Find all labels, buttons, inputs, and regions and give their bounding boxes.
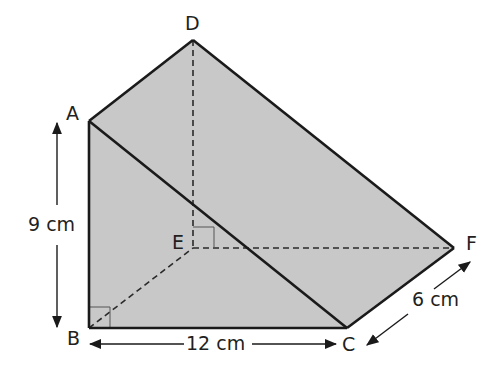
vertex-label-f: F [466,234,477,253]
vertex-label-a: A [66,104,79,123]
dimension-base-label: 12 cm [186,334,245,353]
depth-arrow-up-icon [434,262,470,289]
vertex-label-c: C [342,335,355,354]
prism-diagram [0,0,493,374]
vertex-label-b: B [67,329,80,348]
vertex-label-d: D [185,14,200,33]
prism-shaded-face [89,40,454,328]
dimension-height-label: 9 cm [28,215,75,234]
dimension-depth-label: 6 cm [412,290,459,309]
depth-arrow-down-icon [367,314,408,345]
vertex-label-e: E [172,233,184,252]
